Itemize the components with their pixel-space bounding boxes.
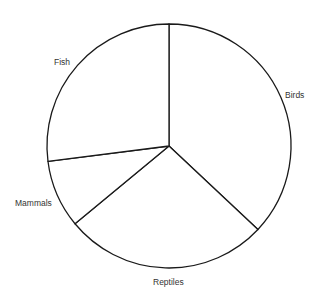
label-mammals: Mammals [15,198,52,208]
label-fish: Fish [54,57,70,67]
pie-chart: Birds Reptiles Mammals Fish [0,0,323,289]
label-reptiles: Reptiles [153,277,184,287]
pie-slices [47,24,291,268]
label-birds: Birds [285,90,304,100]
slice-fish [47,24,169,161]
